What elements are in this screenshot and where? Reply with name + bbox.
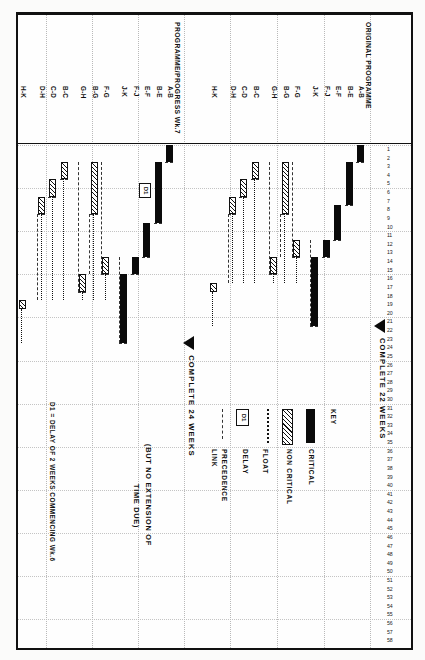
- annotations-layer: (BUT NO EXTENSION OFTIME DUE)D1 = DELAY …: [18, 14, 411, 648]
- delay-footnote: D1 = DELAY OF 2 WEEKS COMMENCING Wk.6: [49, 402, 56, 562]
- drawing-page: 1234567891011121314151617181920212223242…: [0, 0, 425, 660]
- extension-note-line2: TIME DUE): [131, 484, 141, 528]
- rotated-chart-canvas: 1234567891011121314151617181920212223242…: [18, 14, 411, 648]
- extension-note-line1: (BUT NO EXTENSION OF: [143, 444, 153, 546]
- drawing-border: 1234567891011121314151617181920212223242…: [16, 12, 413, 650]
